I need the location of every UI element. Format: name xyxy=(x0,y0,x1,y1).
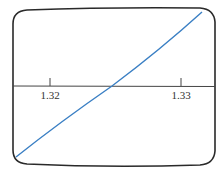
screen-frame xyxy=(13,8,215,167)
x-axis xyxy=(13,86,215,87)
tick-label-1-33: 1.33 xyxy=(171,89,191,101)
graphing-calculator-screen: 1.32 1.33 xyxy=(0,0,222,173)
tick-label-1-32: 1.32 xyxy=(40,89,59,101)
